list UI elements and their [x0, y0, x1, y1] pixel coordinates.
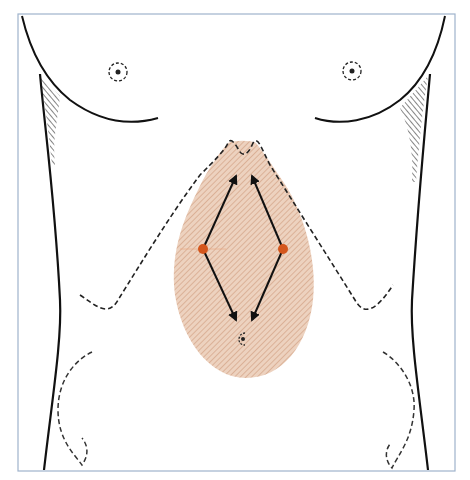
torso-diagram [0, 0, 470, 480]
right-port-marker [278, 244, 288, 254]
left-port-marker [198, 244, 208, 254]
